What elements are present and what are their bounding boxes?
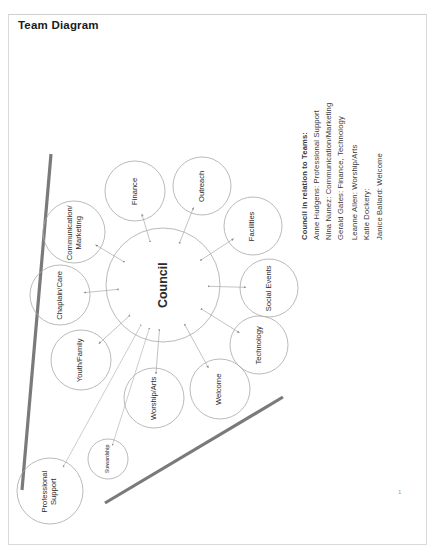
circles-group xyxy=(17,157,298,524)
team-circle-welcome[interactable] xyxy=(190,359,250,419)
legend-entry-5: Katie Dockery: xyxy=(362,189,371,240)
team-circle-outreach[interactable] xyxy=(173,157,231,215)
legend-entry-1: Anne Hudgens: Professional Support xyxy=(312,110,321,240)
legend-entry-2: Nina Nunez: Communication/Marketing xyxy=(324,103,333,240)
hub-circle-council[interactable] xyxy=(106,228,220,342)
team-circle-stewardship[interactable] xyxy=(88,439,128,479)
team-circle-communication-marketing[interactable] xyxy=(43,201,105,263)
team-circle-youth-family[interactable] xyxy=(51,330,111,390)
legend-entry-4: Leanne Allen: Worship/Arts xyxy=(350,145,359,240)
team-circle-finance[interactable] xyxy=(105,161,165,221)
legend-heading: Council in relation to Teams: xyxy=(300,132,309,240)
team-diagram-canvas xyxy=(0,0,435,557)
team-circle-facilities[interactable] xyxy=(224,197,282,255)
team-circle-social-events[interactable] xyxy=(240,259,298,317)
legend-entry-3: Gerald Gates: Finance, Technology xyxy=(336,116,345,240)
document-page: Team Diagram Council in relation to Team… xyxy=(0,0,435,557)
team-circle-professional-support[interactable] xyxy=(17,458,83,524)
team-circle-chaplain-care[interactable] xyxy=(30,265,90,325)
legend-entry-6: Janice Ballard: Welcome xyxy=(375,153,384,240)
team-circle-worship-arts[interactable] xyxy=(124,368,184,428)
page-number: 1 xyxy=(398,489,401,495)
